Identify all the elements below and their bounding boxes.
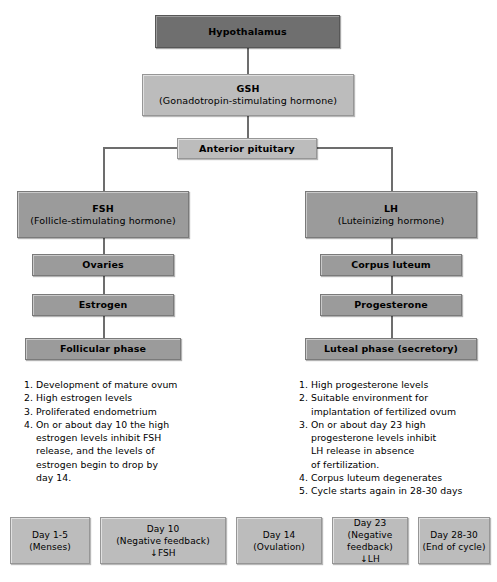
node-gsh-subtitle: (Gonadotropin-stimulating hormone)	[159, 95, 337, 107]
node-follicular-phase-title: Follicular phase	[60, 343, 146, 355]
node-ovaries[interactable]: Ovaries	[32, 254, 174, 276]
timeline-box[interactable]: Day 28-30(End of cycle)	[418, 517, 490, 564]
follicular-list-item-text: On or about day 10 the high	[36, 418, 229, 431]
timeline-box-line2: (End of cycle)	[422, 541, 485, 553]
follicular-list-item-text: Proliferated endometrium	[36, 405, 229, 418]
connector-lh-corpus-luteum	[391, 238, 393, 254]
timeline-box-line3: ↓LH	[360, 553, 380, 565]
luteal-list-item: 3.On or about day 23 high	[299, 418, 497, 431]
node-luteal-phase[interactable]: Luteal phase (secretory)	[305, 338, 477, 360]
follicular-list-item-continuation: estrogen levels inhibit FSH	[24, 431, 229, 444]
timeline-box-line3: ↓FSH	[150, 547, 175, 559]
node-gsh[interactable]: GSH (Gonadotropin-stimulating hormone)	[142, 74, 354, 116]
luteal-list-item-continuation: progesterone levels inhibit	[299, 431, 497, 444]
node-fsh-subtitle: (Follicle-stimulating hormone)	[30, 215, 175, 227]
timeline-box-line1: Day 28-30	[430, 529, 478, 541]
node-progesterone-title: Progesterone	[354, 299, 428, 311]
node-progesterone[interactable]: Progesterone	[320, 294, 462, 316]
follicular-list-item: 4.On or about day 10 the high	[24, 418, 229, 431]
follicular-list-item-number: 4.	[24, 418, 36, 431]
timeline-row: Day 1-5(Menses)Day 10(Negative feedback)…	[0, 517, 497, 567]
luteal-list-item-continuation: LH release in absence	[299, 444, 497, 457]
luteal-list-item-text: High progesterone levels	[311, 378, 497, 391]
timeline-box-line1: Day 1-5	[32, 529, 68, 541]
luteal-list-item: 1.High progesterone levels	[299, 378, 497, 391]
luteal-list-item-number: 1.	[299, 378, 311, 391]
luteal-list-item-number: 5.	[299, 484, 311, 497]
follicular-list-item-number: 2.	[24, 391, 36, 404]
node-hypothalamus[interactable]: Hypothalamus	[155, 15, 340, 48]
node-corpus-luteum[interactable]: Corpus luteum	[320, 254, 462, 276]
timeline-box-line2: (Menses)	[29, 541, 71, 553]
timeline-box-line1: Day 10	[147, 523, 180, 535]
follicular-list-item: 2.High estrogen levels	[24, 391, 229, 404]
luteal-list-item-text: Suitable environment for	[311, 391, 497, 404]
timeline-box[interactable]: Day 14(Ovulation)	[236, 517, 322, 564]
node-estrogen-title: Estrogen	[79, 299, 128, 311]
follicular-list-item-text: High estrogen levels	[36, 391, 229, 404]
node-ovaries-title: Ovaries	[82, 259, 123, 271]
node-fsh[interactable]: FSH (Follicle-stimulating hormone)	[17, 191, 189, 238]
timeline-box-line2: (Negative feedback)	[116, 535, 210, 547]
node-lh[interactable]: LH (Luteinizing hormone)	[305, 191, 477, 238]
node-lh-subtitle: (Luteinizing hormone)	[338, 215, 445, 227]
follicular-list-item: 1.Development of mature ovum	[24, 378, 229, 391]
connector-gsh-anterior-pituitary	[247, 116, 249, 138]
timeline-box[interactable]: Day 10(Negative feedback)↓FSH	[100, 517, 226, 564]
node-follicular-phase[interactable]: Follicular phase	[25, 338, 181, 360]
timeline-box-line2: (Ovulation)	[253, 541, 305, 553]
connector-bus-to-lh	[391, 147, 393, 191]
timeline-box[interactable]: Day 23(Negative feedback)↓LH	[332, 517, 408, 564]
luteal-list-item: 5.Cycle starts again in 28-30 days	[299, 484, 497, 497]
luteal-list-item: 4.Corpus luteum degenerates	[299, 471, 497, 484]
luteal-list-item-number: 3.	[299, 418, 311, 431]
timeline-box[interactable]: Day 1-5(Menses)	[10, 517, 90, 564]
node-hypothalamus-title: Hypothalamus	[208, 26, 286, 38]
node-anterior-pituitary-title: Anterior pituitary	[199, 143, 295, 155]
luteal-list-item-number: 2.	[299, 391, 311, 404]
node-estrogen[interactable]: Estrogen	[32, 294, 174, 316]
node-anterior-pituitary[interactable]: Anterior pituitary	[177, 138, 317, 159]
node-luteal-phase-title: Luteal phase (secretory)	[324, 343, 458, 355]
connector-hypothalamus-gsh	[247, 48, 249, 74]
node-fsh-title: FSH	[92, 203, 114, 215]
follicular-list-item-text: Development of mature ovum	[36, 378, 229, 391]
node-lh-title: LH	[384, 203, 398, 215]
follicular-list-item-continuation: day 14.	[24, 471, 229, 484]
flowchart-canvas: Hypothalamus GSH (Gonadotropin-stimulati…	[0, 0, 497, 582]
follicular-list-item-number: 1.	[24, 378, 36, 391]
follicular-phase-list: 1.Development of mature ovum2.High estro…	[24, 378, 229, 484]
connector-progesterone-luteal	[391, 316, 393, 338]
luteal-list-item: 2.Suitable environment for	[299, 391, 497, 404]
luteal-list-item-continuation: implantation of fertilized ovum	[299, 405, 497, 418]
luteal-list-item-number: 4.	[299, 471, 311, 484]
timeline-box-line1: Day 14	[263, 529, 296, 541]
timeline-box-line1: Day 23	[354, 517, 387, 529]
follicular-list-item-continuation: release, and the levels of	[24, 444, 229, 457]
luteal-phase-list: 1.High progesterone levels2.Suitable env…	[299, 378, 497, 498]
node-corpus-luteum-title: Corpus luteum	[351, 259, 431, 271]
luteal-list-item-text: On or about day 23 high	[311, 418, 497, 431]
connector-corpus-progesterone	[391, 276, 393, 294]
connector-bus-to-fsh	[103, 147, 105, 191]
follicular-list-item-number: 3.	[24, 405, 36, 418]
luteal-list-item-continuation: of fertilization.	[299, 458, 497, 471]
luteal-list-item-text: Cycle starts again in 28-30 days	[311, 484, 497, 497]
follicular-list-item: 3.Proliferated endometrium	[24, 405, 229, 418]
follicular-list-item-continuation: estrogen begin to drop by	[24, 458, 229, 471]
connector-ovaries-estrogen	[103, 276, 105, 294]
connector-estrogen-follicular	[103, 316, 105, 338]
luteal-list-item-text: Corpus luteum degenerates	[311, 471, 497, 484]
connector-fsh-ovaries	[103, 238, 105, 254]
node-gsh-title: GSH	[237, 83, 260, 95]
timeline-box-line2: (Negative feedback)	[333, 529, 407, 553]
